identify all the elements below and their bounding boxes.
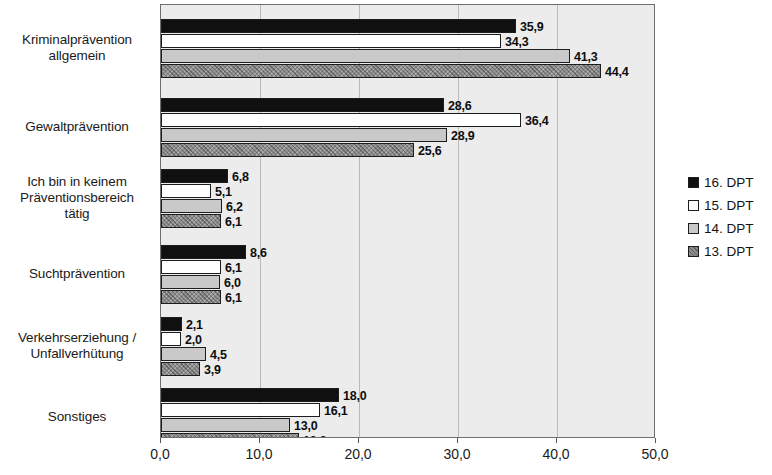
x-axis-tick-label: 40,0 [542, 446, 569, 462]
bar-value-label: 6,2 [226, 200, 243, 214]
x-axis-ticks [160, 438, 655, 444]
bar [161, 362, 200, 376]
x-axis-tick [259, 438, 260, 443]
category-label: Sonstiges [0, 409, 154, 425]
category-label-line: Präventionsbereich [0, 190, 154, 206]
bar [161, 388, 339, 402]
bar [161, 290, 221, 304]
bar-value-label: 36,4 [525, 114, 549, 128]
legend-item: 16. DPT [688, 171, 772, 194]
legend: 16. DPT15. DPT14. DPT13. DPT [688, 171, 772, 263]
bar [161, 418, 290, 432]
legend-label: 14. DPT [704, 221, 754, 236]
bar-value-label: 25,6 [418, 144, 442, 158]
plot-area: 35,934,341,344,428,636,428,925,66,85,16,… [160, 4, 655, 438]
bar [161, 245, 246, 259]
bar [161, 169, 228, 183]
legend-swatch [688, 200, 699, 211]
category-label-line: Ich bin in keinem [0, 174, 154, 190]
x-axis-tick [160, 438, 161, 443]
legend-swatch [688, 223, 699, 234]
bar-value-label: 5,1 [215, 185, 232, 199]
bar [161, 317, 182, 331]
bar [161, 347, 206, 361]
bar [161, 34, 501, 48]
x-axis-tick [556, 438, 557, 443]
bar-value-label: 18,0 [343, 389, 367, 403]
bar-value-label: 4,5 [210, 348, 227, 362]
legend-label: 13. DPT [704, 244, 754, 259]
category-label-line: Verkehrserziehung / [0, 330, 154, 346]
category-label-line: Sonstiges [0, 409, 154, 425]
bar-value-label: 28,9 [451, 129, 475, 143]
legend-label: 16. DPT [704, 175, 754, 190]
category-label-line: allgemein [0, 48, 154, 64]
bar-value-label: 8,6 [250, 246, 267, 260]
x-axis-tick-label: 0,0 [150, 446, 169, 462]
bar-value-label: 6,1 [225, 261, 242, 275]
bar [161, 403, 320, 417]
x-axis-tick [358, 438, 359, 443]
category-label-line: Gewaltprävention [0, 119, 154, 135]
category-label-line: Kriminalprävention [0, 32, 154, 48]
category-label: Ich bin in keinemPräventionsbereichtätig [0, 174, 154, 222]
bar-value-label: 2,1 [186, 318, 203, 332]
x-axis-tick-label: 20,0 [344, 446, 371, 462]
bar [161, 113, 521, 127]
category-label: Gewaltprävention [0, 119, 154, 135]
bar-value-label: 6,1 [225, 291, 242, 305]
bar-value-label: 34,3 [505, 35, 529, 49]
bar [161, 332, 181, 346]
category-label: Kriminalpräventionallgemein [0, 32, 154, 64]
x-axis-tick-label: 10,0 [245, 446, 272, 462]
bar-value-label: 35,9 [520, 20, 544, 34]
bar [161, 49, 570, 63]
bar-value-label: 28,6 [448, 99, 472, 113]
bar [161, 128, 447, 142]
bar [161, 98, 444, 112]
legend-item: 15. DPT [688, 194, 772, 217]
category-label: Verkehrserziehung /Unfallverhütung [0, 330, 154, 362]
bar-value-label: 6,0 [224, 276, 241, 290]
legend-item: 13. DPT [688, 240, 772, 263]
bar-value-label: 6,8 [232, 170, 249, 184]
legend-item: 14. DPT [688, 217, 772, 240]
x-axis-tick [655, 438, 656, 443]
category-label-line: tätig [0, 206, 154, 222]
legend-swatch [688, 177, 699, 188]
category-axis-labels: KriminalpräventionallgemeinGewaltprävent… [0, 0, 156, 438]
bar [161, 214, 221, 228]
bar [161, 184, 211, 198]
bar [161, 143, 414, 157]
bar [161, 199, 222, 213]
bar-value-label: 44,4 [605, 65, 629, 79]
bar [161, 275, 220, 289]
bar-value-label: 6,1 [225, 215, 242, 229]
legend-label: 15. DPT [704, 198, 754, 213]
category-label: Suchtprävention [0, 266, 154, 282]
x-axis-tick [457, 438, 458, 443]
x-axis-labels: 0,010,020,030,040,050,0 [0, 446, 772, 470]
bar-value-label: 16,1 [324, 404, 348, 418]
bar-chart: KriminalpräventionallgemeinGewaltprävent… [0, 0, 772, 475]
bar-value-label: 2,0 [185, 333, 202, 347]
bar [161, 260, 221, 274]
legend-swatch [688, 246, 699, 257]
x-axis-tick-label: 30,0 [443, 446, 470, 462]
x-axis-tick-label: 50,0 [641, 446, 668, 462]
bar [161, 19, 516, 33]
bar-value-label: 13,0 [294, 419, 318, 433]
bar-value-label: 3,9 [204, 363, 221, 377]
category-label-line: Suchtprävention [0, 266, 154, 282]
bar-value-label: 41,3 [574, 50, 598, 64]
category-label-line: Unfallverhütung [0, 346, 154, 362]
bar [161, 64, 601, 78]
